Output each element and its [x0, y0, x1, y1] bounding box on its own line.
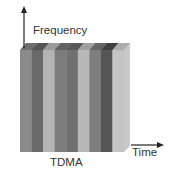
time-slot-9: [112, 50, 124, 152]
time-slot-3: [43, 50, 55, 152]
time-axis-label: Time: [132, 146, 157, 158]
tdma-diagram: Frequency Time TDMA: [0, 0, 172, 174]
time-axis-arrowhead-icon: [157, 142, 164, 148]
frequency-axis-arrowhead-icon: [21, 6, 27, 13]
block-side-face: [124, 43, 130, 152]
time-slot-1: [20, 50, 32, 152]
time-slot-stripes: [20, 43, 130, 152]
time-slot-2: [32, 50, 44, 152]
time-slot-4: [55, 50, 67, 152]
time-slot-5: [66, 50, 78, 152]
time-slot-8: [101, 50, 113, 152]
tdma-caption: TDMA: [50, 156, 83, 168]
frequency-axis-label: Frequency: [33, 24, 87, 36]
time-slot-7: [89, 50, 101, 152]
time-slot-6: [78, 50, 90, 152]
